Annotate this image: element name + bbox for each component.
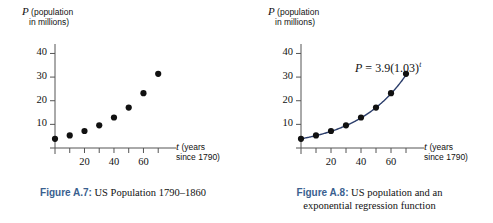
plot-area-a7: P (population in millions) t (years sinc… [0,0,246,180]
y-axis-label-line2-a7: in millions) [22,17,73,27]
regression-equation-annotation: P = 3.9(1.03)t [355,60,421,76]
y-axis-label-a8: P (population in millions) [268,6,319,27]
x-tick-label: 20 [317,156,345,167]
figure-caption-text-line2-a8: exponential regression function [246,199,493,212]
data-point [67,132,73,138]
figure-caption-text-a7: US Population 1790–1860 [92,187,206,198]
figure-caption-text-a8: US population and an [348,187,442,198]
figure-tag-a8: Figure A.8 [297,187,346,198]
y-tick-label: 20 [19,94,47,105]
figure-a8: P (population in millions) t (years sinc… [246,0,493,223]
y-tick-label: 20 [265,94,293,105]
data-point [52,136,58,142]
x-tick-label: 40 [100,156,128,167]
figure-caption-a7: Figure A.7: US Population 1790–1860 [0,186,246,199]
figure-tag-a7: Figure A.7 [40,187,89,198]
x-tick-label: 20 [70,156,98,167]
figure-pair-page: P (population in millions) t (years sinc… [0,0,493,223]
x-axis-label-line2-a8: since 1790) [424,152,468,162]
data-point [96,122,102,128]
data-point [343,122,349,128]
regression-curve [301,75,406,139]
x-tick-label: 60 [377,156,405,167]
y-tick-label: 40 [265,46,293,57]
y-axis-variable-a7: P [22,5,29,17]
equation-coefficient: 3.9(1.03) [375,61,419,75]
x-axis-label-a8: t (years since 1790) [424,141,468,162]
y-tick-label: 30 [265,70,293,81]
data-point [126,104,132,110]
y-axis-label-line2-a8: in millions) [268,17,319,27]
y-axis-label-line1-a7: (population [29,7,73,17]
x-tick-label: 60 [129,156,157,167]
data-point [155,71,161,77]
data-point [140,90,146,96]
equation-exponent: t [419,60,421,69]
x-tick-label: 40 [347,156,375,167]
data-point [388,90,394,96]
data-point [81,128,87,134]
y-tick-label: 10 [19,117,47,128]
data-point [373,104,379,110]
data-point [358,114,364,120]
y-tick-label: 30 [19,70,47,81]
equation-equals: = [362,61,375,75]
data-point [328,128,334,134]
figure-caption-a8: Figure A.8: US population and an exponen… [246,186,493,212]
x-axis-label-line1-a8: (years [427,142,453,152]
y-tick-label: 10 [265,117,293,128]
y-axis-label-line1-a8: (population [275,7,319,17]
y-axis-label-a7: P (population in millions) [22,6,73,27]
x-axis-label-line2-a7: since 1790) [176,152,220,162]
x-axis-label-line1-a7: (years [179,142,205,152]
y-tick-label: 40 [19,46,47,57]
y-axis-variable-a8: P [268,5,275,17]
plot-area-a8: P (population in millions) t (years sinc… [246,0,493,180]
x-axis-label-a7: t (years since 1790) [176,141,220,162]
data-point [313,132,319,138]
data-point [298,136,304,142]
data-point [111,114,117,120]
figure-a7: P (population in millions) t (years sinc… [0,0,246,223]
